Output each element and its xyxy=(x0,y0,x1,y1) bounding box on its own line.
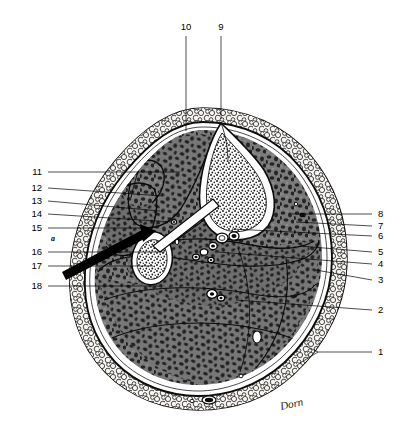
label-10: 10 xyxy=(181,21,192,32)
label-6: 6 xyxy=(378,230,383,241)
label-8: 8 xyxy=(378,208,383,219)
saphenous-vein xyxy=(253,331,261,343)
label-17: 17 xyxy=(31,260,42,271)
label-4: 4 xyxy=(378,258,383,269)
cross-section-illustration: 10 9 11 12 13 14 15 16 17 18 8 7 6 5 4 3… xyxy=(0,0,405,437)
label-16: 16 xyxy=(31,246,42,257)
label-2: 2 xyxy=(378,304,383,315)
label-11: 11 xyxy=(32,166,42,177)
label-3: 3 xyxy=(378,274,383,285)
label-1: 1 xyxy=(378,346,383,357)
label-14: 14 xyxy=(31,208,42,219)
label-5: 5 xyxy=(378,246,383,257)
label-9: 9 xyxy=(218,21,223,32)
label-13: 13 xyxy=(31,195,42,206)
label-15: 15 xyxy=(31,222,42,233)
label-12: 12 xyxy=(31,182,42,193)
anatomy-figure: 10 9 11 12 13 14 15 16 17 18 8 7 6 5 4 3… xyxy=(0,0,405,437)
label-18: 18 xyxy=(31,280,42,291)
marker-a-label: a xyxy=(51,234,55,243)
